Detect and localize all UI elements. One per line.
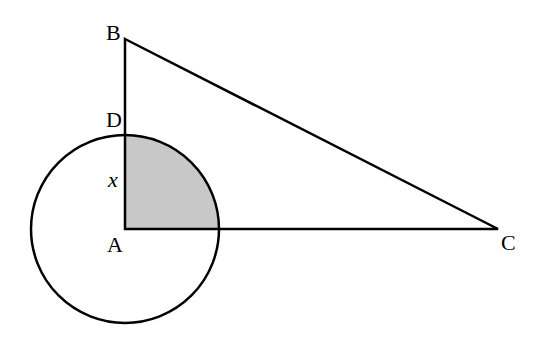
label-x: x [107,167,118,192]
label-A: A [107,232,123,257]
label-D: D [106,107,122,132]
label-B: B [106,20,121,45]
geometry-diagram: B D x A C [0,0,542,346]
shaded-quarter-circle [125,135,219,229]
label-C: C [501,230,516,255]
